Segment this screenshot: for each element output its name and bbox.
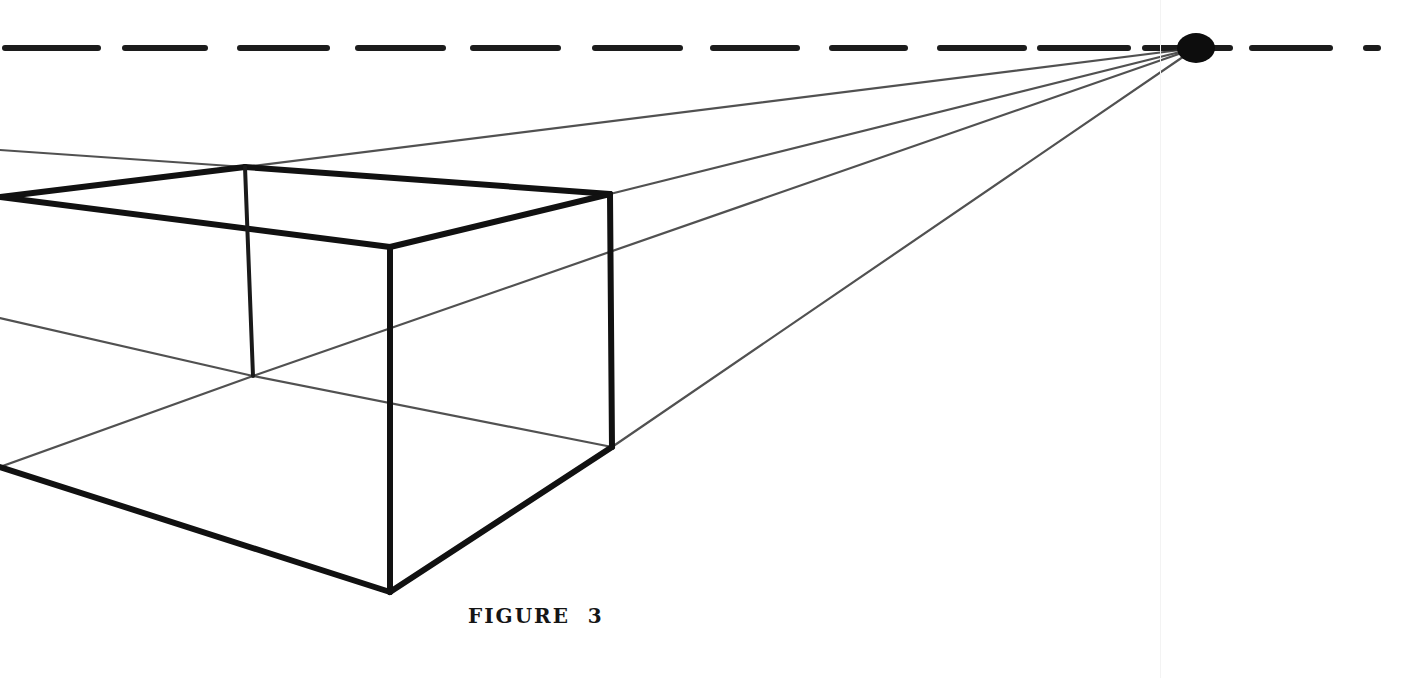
page-gutter-shadow bbox=[1160, 0, 1161, 678]
box-edge-back-vertical bbox=[245, 167, 253, 376]
figure-caption: FIGURE 3 bbox=[468, 604, 604, 628]
box-edge-top-left-to-back bbox=[0, 167, 245, 197]
construction-lines bbox=[0, 48, 1196, 467]
box-edge-top-near-to-right bbox=[390, 194, 610, 247]
box-edge-bottom-near-to-right bbox=[390, 447, 612, 592]
guide-line bbox=[245, 48, 1196, 167]
box-edge-top-left-to-near bbox=[0, 197, 390, 247]
box-edge-top-back-to-right bbox=[245, 167, 610, 194]
guide-line bbox=[253, 376, 612, 447]
guide-line bbox=[0, 376, 253, 467]
guide-line bbox=[253, 48, 1196, 376]
vanishing-point bbox=[1177, 33, 1215, 63]
guide-line bbox=[612, 48, 1196, 447]
box-edge-bottom-left-to-near bbox=[0, 467, 390, 592]
box-edge-right-vertical bbox=[610, 194, 612, 447]
perspective-diagram bbox=[0, 0, 1428, 678]
guide-line bbox=[0, 318, 253, 376]
guide-line bbox=[0, 150, 245, 167]
perspective-box bbox=[0, 167, 612, 592]
guide-line bbox=[610, 48, 1196, 194]
